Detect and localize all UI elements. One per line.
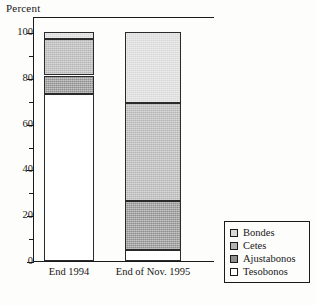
legend-swatch-tesobonos [230, 268, 238, 276]
legend-label-tesobonos: Tesobonos [243, 266, 288, 277]
y-axis-title: Percent [6, 2, 40, 14]
y-tick-label-40: 40 [5, 163, 33, 174]
legend-label-ajustabonos: Ajustabonos [243, 253, 296, 264]
legend-item-cetes: Cetes [230, 239, 305, 252]
y-tick-label-20: 20 [5, 209, 33, 220]
bar-segment-ajusta-1 [44, 76, 94, 94]
y-tick-mark-0 [27, 262, 34, 263]
y-tick-mark-20 [27, 216, 34, 217]
bar-segment-ajusta-2 [125, 201, 181, 249]
y-tick-label-100: 100 [5, 26, 33, 37]
legend-swatch-ajustabonos [230, 255, 238, 263]
y-tick-label-80: 80 [5, 72, 33, 83]
y-tick-mark-60 [27, 125, 34, 126]
bar-segment-bondes-1 [44, 32, 94, 39]
chart-legend: Bondes Cetes Ajustabonos Tesobonos [224, 221, 310, 283]
legend-item-tesobonos: Tesobonos [230, 265, 305, 278]
bar-segment-tesob-1 [44, 94, 94, 261]
legend-item-ajustabonos: Ajustabonos [230, 252, 305, 265]
bar-segment-bondes-2 [125, 32, 181, 103]
y-tick-mark-40 [27, 170, 34, 171]
legend-label-bondes: Bondes [243, 227, 275, 238]
legend-label-cetes: Cetes [243, 240, 266, 251]
legend-swatch-cetes [230, 242, 238, 250]
chart-container: Percent 020406080100 End 1994End of Nov.… [0, 0, 316, 305]
y-tick-label-0: 0 [5, 255, 33, 266]
y-tick-label-60: 60 [5, 118, 33, 129]
y-tick-mark-100 [27, 33, 34, 34]
bar-segment-cetes-1 [44, 39, 94, 76]
bar-2 [125, 33, 181, 262]
legend-swatch-bondes [230, 229, 238, 237]
legend-item-bondes: Bondes [230, 226, 305, 239]
y-tick-mark-80 [27, 79, 34, 80]
bar-segment-tesob-2 [125, 250, 181, 261]
bar-segment-cetes-2 [125, 103, 181, 201]
x-axis-label-2: End of Nov. 1995 [93, 266, 213, 277]
bar-1 [44, 33, 94, 262]
